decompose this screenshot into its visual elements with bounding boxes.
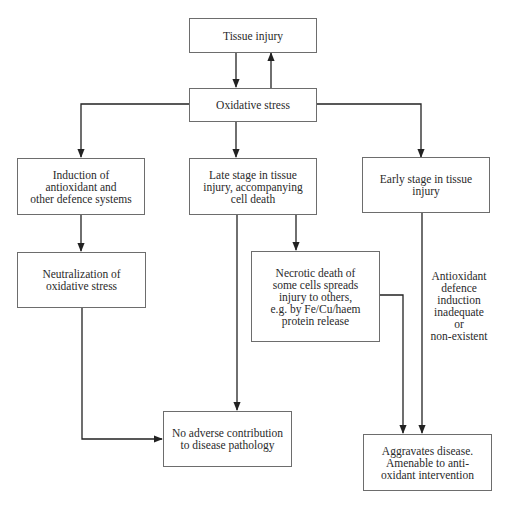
node-late-stage: Late stage in tissue injury, accompanyin… [189, 158, 317, 215]
node-neutralization: Neutralization of oxidative stress [17, 252, 146, 308]
node-label: Tissue injury [223, 30, 283, 42]
arrow-necrotic-to-aggravates [380, 295, 403, 433]
node-tissue-injury: Tissue injury [189, 18, 317, 53]
annotation-antioxidant-defence: Antioxidant defence induction inadequate… [428, 270, 490, 342]
node-no-adverse: No adverse contribution to disease patho… [163, 411, 292, 467]
node-label: Late stage in tissue injury, accompanyin… [203, 169, 303, 205]
node-oxidative-stress: Oxidative stress [189, 88, 317, 122]
arrow-stress-to-induction [81, 104, 189, 157]
node-label: Aggravates disease. Amenable to anti- ox… [381, 445, 474, 481]
node-induction: Induction of antioxidant and other defen… [17, 158, 145, 215]
node-early-stage: Early stage in tissue injury [362, 157, 490, 213]
node-label: Neutralization of oxidative stress [42, 268, 120, 292]
arrow-stress-to-early [317, 104, 421, 157]
node-label: No adverse contribution to disease patho… [172, 427, 283, 451]
arrow-neutralization-to-noadverse [82, 308, 162, 439]
node-label: Early stage in tissue injury [380, 173, 472, 197]
node-label: Oxidative stress [216, 99, 290, 111]
node-aggravates: Aggravates disease. Amenable to anti- ox… [363, 434, 492, 491]
node-label: Necrotic death of some cells spreads inj… [270, 267, 360, 327]
node-label: Induction of antioxidant and other defen… [30, 169, 132, 205]
node-necrotic: Necrotic death of some cells spreads inj… [251, 251, 380, 342]
